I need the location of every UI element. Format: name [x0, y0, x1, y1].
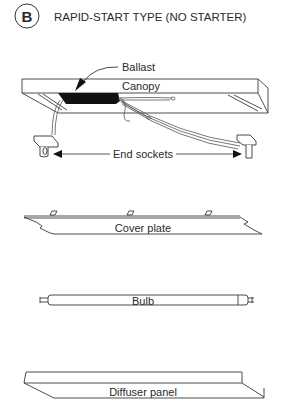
wires	[52, 97, 240, 149]
diagram-title: RAPID-START TYPE (NO STARTER)	[54, 11, 247, 23]
ballast-label: Ballast	[122, 61, 155, 73]
cover-plate-label: Cover plate	[115, 222, 171, 234]
bulb-label: Bulb	[132, 295, 154, 307]
badge-letter: B	[22, 8, 33, 25]
end-sockets-label: End sockets	[113, 148, 173, 160]
fixture-diagram: B RAPID-START TYPE (NO STARTER) Ballast …	[0, 0, 285, 417]
diffuser-panel-label: Diffuser panel	[109, 386, 177, 398]
section-badge: B	[15, 4, 39, 28]
ballast	[58, 93, 120, 104]
canopy-label: Canopy	[122, 80, 160, 92]
